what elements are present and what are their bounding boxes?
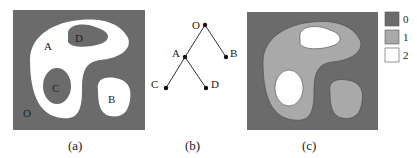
node-label-o: O xyxy=(192,19,200,31)
legend-label-2: 2 xyxy=(403,49,409,61)
node-c xyxy=(164,86,168,90)
node-b xyxy=(224,55,228,59)
node-label-c: C xyxy=(151,78,158,90)
legend-label-0: 0 xyxy=(403,13,409,25)
label-b: B xyxy=(108,93,115,105)
node-d xyxy=(204,86,208,90)
legend-label-1: 1 xyxy=(403,31,409,43)
figure: A D C B O (a) O A B C D (b) (c) 0 1 xyxy=(0,0,417,158)
label-o: O xyxy=(23,107,31,119)
label-d: D xyxy=(75,32,83,44)
legend-swatch-0 xyxy=(385,12,399,26)
node-o xyxy=(203,23,207,27)
legend-swatch-2 xyxy=(385,48,399,62)
level-1-region-b xyxy=(330,80,363,119)
legend-swatch-1 xyxy=(385,30,399,44)
legend: 0 1 2 xyxy=(385,12,409,62)
node-label-d: D xyxy=(211,78,219,90)
level-2-region-c xyxy=(275,70,303,106)
panel-c: (c) xyxy=(247,12,378,153)
caption-c: (c) xyxy=(302,138,316,153)
node-label-a: A xyxy=(172,47,180,59)
caption-a: (a) xyxy=(68,138,82,153)
caption-b: (b) xyxy=(185,138,200,153)
node-a xyxy=(183,55,187,59)
panel-a: A D C B O (a) xyxy=(13,10,145,153)
label-a: A xyxy=(44,40,52,52)
label-c: C xyxy=(52,82,59,94)
node-label-b: B xyxy=(230,47,237,59)
